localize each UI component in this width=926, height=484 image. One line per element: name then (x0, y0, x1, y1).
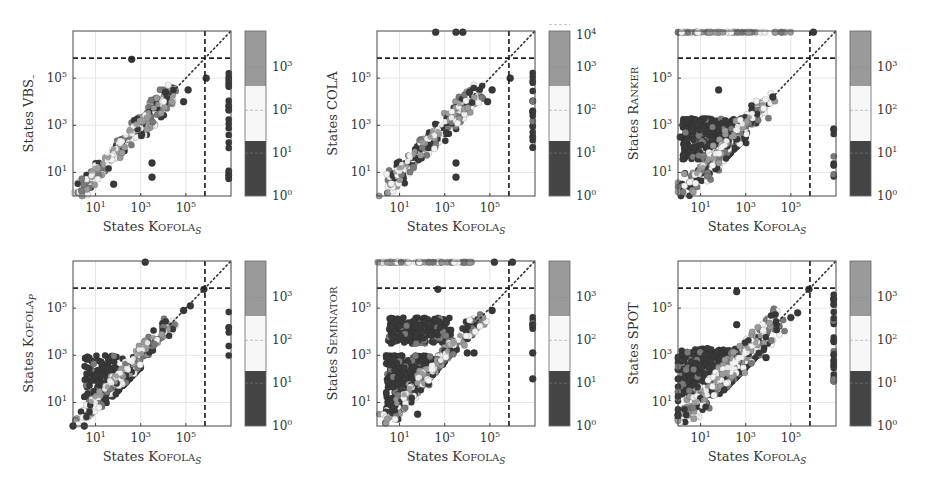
scatter-panel-4: 101101103103105105States KOFOLASStates K… (0, 230, 300, 465)
svg-text:105: 105 (480, 200, 500, 215)
data-points (71, 56, 232, 199)
svg-text:101: 101 (690, 430, 710, 445)
svg-text:105: 105 (781, 430, 801, 445)
diagonal-line (474, 31, 535, 95)
svg-text:103: 103 (652, 347, 672, 362)
svg-text:103: 103 (576, 289, 596, 304)
x-axis-label: States KOFOLAS (407, 449, 506, 465)
scatter-panel-6: 101101103103105105States KOFOLASStates S… (605, 230, 905, 465)
svg-text:103: 103 (877, 289, 897, 304)
svg-text:101: 101 (576, 145, 596, 160)
diagonal-line (170, 261, 231, 325)
svg-text:100: 100 (576, 188, 596, 203)
svg-text:101: 101 (877, 145, 897, 160)
diagonal-line (775, 31, 836, 95)
svg-text:101: 101 (272, 145, 292, 160)
svg-text:101: 101 (652, 394, 672, 409)
svg-text:103: 103 (272, 289, 292, 304)
colorbar: 100101102103 (850, 261, 897, 433)
svg-text:100: 100 (272, 188, 292, 203)
svg-text:103: 103 (435, 200, 455, 215)
scatter-panel-1: 101101103103105105States KOFOLASStates V… (0, 0, 300, 235)
svg-text:101: 101 (47, 164, 67, 179)
svg-text:105: 105 (47, 70, 67, 85)
x-axis-label: States KOFOLAS (103, 449, 202, 465)
svg-text:105: 105 (652, 300, 672, 315)
svg-text:105: 105 (176, 430, 196, 445)
y-axis-label: States SEMINATOR (325, 286, 340, 400)
svg-text:103: 103 (652, 117, 672, 132)
svg-text:103: 103 (351, 347, 371, 362)
svg-text:100: 100 (877, 188, 897, 203)
svg-text:103: 103 (435, 430, 455, 445)
svg-text:101: 101 (351, 394, 371, 409)
svg-text:103: 103 (736, 200, 756, 215)
svg-text:102: 102 (877, 332, 897, 347)
svg-text:105: 105 (351, 70, 371, 85)
svg-text:101: 101 (389, 430, 409, 445)
y-axis-label: States COLA (325, 71, 340, 156)
svg-text:103: 103 (131, 430, 151, 445)
svg-text:105: 105 (652, 70, 672, 85)
svg-text:101: 101 (272, 375, 292, 390)
svg-text:100: 100 (877, 418, 897, 433)
svg-text:101: 101 (47, 394, 67, 409)
svg-text:105: 105 (47, 300, 67, 315)
svg-text:102: 102 (576, 102, 596, 117)
svg-text:101: 101 (351, 164, 371, 179)
svg-text:101: 101 (389, 200, 409, 215)
svg-text:100: 100 (576, 418, 596, 433)
svg-text:101: 101 (652, 164, 672, 179)
svg-text:103: 103 (576, 59, 596, 74)
svg-text:103: 103 (47, 347, 67, 362)
colorbar: 100101102103 (549, 261, 596, 433)
svg-text:101: 101 (85, 200, 105, 215)
svg-text:101: 101 (877, 375, 897, 390)
scatter-panel-3: 101101103103105105States KOFOLASStates R… (605, 0, 905, 235)
diagonal-line (775, 261, 836, 325)
diagonal-line (170, 31, 231, 95)
svg-text:102: 102 (272, 332, 292, 347)
svg-text:103: 103 (131, 200, 151, 215)
svg-text:100: 100 (272, 418, 292, 433)
svg-text:103: 103 (351, 117, 371, 132)
colorbar: 100101102103 (850, 31, 897, 203)
scatter-panel-2: 101101103103105105States KOFOLASStates C… (304, 0, 604, 235)
y-axis-label: States RANKER (626, 66, 641, 160)
scatter-panel-5: 101101103103105105States KOFOLASStates S… (304, 230, 604, 465)
svg-text:105: 105 (176, 200, 196, 215)
svg-text:101: 101 (690, 200, 710, 215)
colorbar: 100101102103 (245, 31, 292, 203)
svg-text:103: 103 (272, 59, 292, 74)
svg-text:104: 104 (576, 27, 596, 42)
svg-text:105: 105 (351, 300, 371, 315)
y-axis-label: States VBS– (21, 74, 38, 152)
diagonal-line (474, 261, 535, 325)
svg-text:105: 105 (781, 200, 801, 215)
svg-text:103: 103 (877, 59, 897, 74)
colorbar: 100101102103104 (549, 25, 596, 203)
svg-text:102: 102 (576, 332, 596, 347)
svg-text:102: 102 (272, 102, 292, 117)
svg-text:103: 103 (47, 117, 67, 132)
svg-text:102: 102 (877, 102, 897, 117)
y-axis-label: States SPOT (626, 302, 641, 385)
svg-text:103: 103 (736, 430, 756, 445)
data-points (375, 259, 537, 426)
x-axis-label: States KOFOLAS (708, 449, 807, 465)
svg-text:105: 105 (480, 430, 500, 445)
svg-text:101: 101 (85, 430, 105, 445)
colorbar: 100101102103 (245, 261, 292, 433)
svg-text:101: 101 (576, 375, 596, 390)
y-axis-label: States KOFOLAP (21, 293, 38, 393)
